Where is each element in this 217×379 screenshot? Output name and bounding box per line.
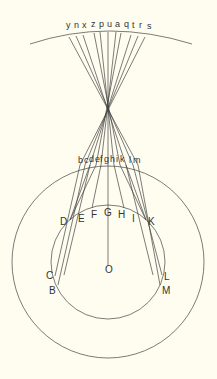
label-m: m [133, 155, 141, 165]
label-F: F [91, 209, 97, 220]
label-d: d [89, 154, 94, 164]
label-r: r [139, 20, 142, 30]
label-k: k [120, 154, 125, 164]
label-C: C [46, 270, 53, 281]
label-t: t [132, 20, 135, 30]
label-n: n [74, 20, 79, 30]
top-labels: y n x z p u a q t r s [66, 19, 152, 31]
label-K: K [148, 216, 155, 227]
label-f: f [100, 154, 103, 164]
label-D: D [60, 216, 67, 227]
label-E: E [78, 213, 85, 224]
label-O: O [105, 264, 113, 275]
label-I: I [132, 213, 135, 224]
label-B: B [49, 285, 56, 296]
label-b: b [78, 155, 83, 165]
label-M: M [162, 285, 170, 296]
label-g: g [104, 154, 109, 164]
label-a: a [115, 19, 120, 29]
label-i: i [116, 154, 118, 164]
label-s: s [147, 21, 152, 31]
optics-diagram: y n x z p u a q t r s b c d e f g h i k … [0, 0, 217, 379]
label-p: p [99, 19, 104, 29]
label-H: H [118, 209, 125, 220]
label-x: x [82, 20, 87, 30]
label-l: l [129, 155, 131, 165]
label-L: L [164, 271, 170, 282]
lens-labels: b c d e f g h i k l m [78, 154, 141, 165]
label-z: z [91, 19, 96, 29]
label-y: y [66, 20, 71, 30]
label-u: u [107, 19, 112, 29]
top-arc [30, 31, 192, 44]
label-q: q [124, 19, 129, 29]
label-G: G [104, 207, 112, 218]
label-h: h [110, 154, 115, 164]
